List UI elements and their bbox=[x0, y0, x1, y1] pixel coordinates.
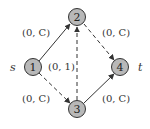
node-1: 1 bbox=[25, 59, 42, 76]
node-4: 4 bbox=[112, 59, 129, 76]
node-3: 3 bbox=[69, 101, 86, 118]
source-label: s bbox=[10, 61, 16, 74]
svg-text:4: 4 bbox=[117, 61, 124, 74]
svg-text:3: 3 bbox=[74, 103, 81, 116]
edge-label-1-3: (0, C) bbox=[22, 93, 50, 104]
sink-label: t bbox=[138, 61, 143, 74]
node-2: 2 bbox=[69, 9, 86, 26]
flow-network-diagram: (0, C) (0, C) (0, 1) (0, C) (0, C) 1 2 3… bbox=[0, 0, 150, 129]
edge-label-3-2: (0, 1) bbox=[48, 61, 75, 72]
edge-label-3-4: (0, C) bbox=[102, 93, 130, 104]
svg-text:2: 2 bbox=[74, 11, 81, 24]
svg-text:1: 1 bbox=[30, 61, 37, 74]
edge-label-1-2: (0, C) bbox=[22, 27, 50, 38]
edge-label-2-4: (0, C) bbox=[102, 27, 130, 38]
